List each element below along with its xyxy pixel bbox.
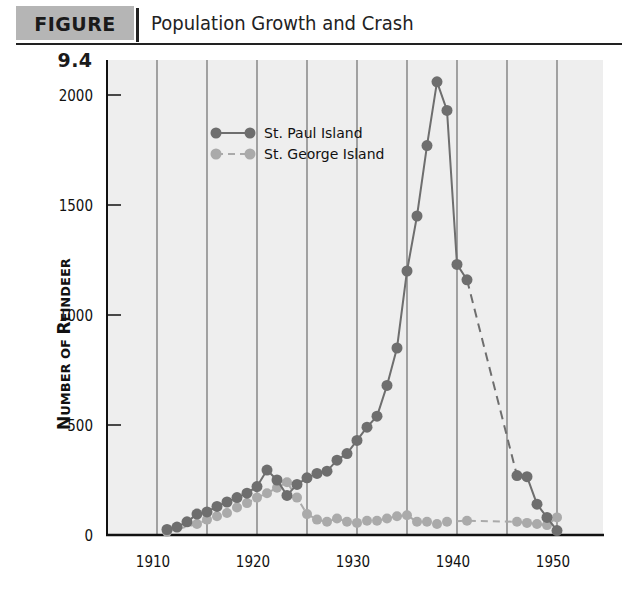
x-tick-label: 1920	[236, 553, 270, 571]
st-george-point	[212, 511, 222, 521]
st-george-point	[362, 516, 372, 526]
st-paul-point	[392, 343, 403, 354]
st-paul-point	[442, 105, 453, 116]
st-george-point	[322, 517, 332, 527]
st-paul-point	[332, 455, 343, 466]
st-george-point	[232, 503, 242, 513]
st-george-point	[442, 517, 452, 527]
st-paul-point	[552, 525, 563, 536]
st-george-point	[352, 518, 362, 528]
st-paul-point	[452, 259, 463, 270]
st-george-point	[412, 517, 422, 527]
st-paul-point	[162, 524, 173, 535]
st-george-point	[282, 477, 292, 487]
st-paul-point	[402, 266, 413, 277]
st-george-point	[552, 512, 562, 522]
st-paul-point	[422, 140, 433, 151]
st-paul-point	[182, 516, 193, 527]
x-tick-label: 1940	[436, 553, 470, 571]
st-paul-point	[312, 468, 323, 479]
st-george-point	[462, 516, 472, 526]
legend-st-paul-label: St. Paul Island	[264, 125, 363, 141]
legend-st-george-label: St. George Island	[264, 146, 384, 162]
x-axis-ticks: 19101920193019401950	[136, 553, 570, 571]
y-tick-label: 0	[84, 527, 93, 545]
st-george-point	[292, 493, 302, 503]
st-george-point	[532, 519, 542, 529]
st-george-point	[312, 515, 322, 525]
st-george-point	[372, 516, 382, 526]
st-george-point	[392, 511, 402, 521]
st-paul-point	[412, 211, 423, 222]
st-paul-point	[232, 492, 243, 503]
st-george-point	[432, 519, 442, 529]
y-tick-label: 2000	[59, 87, 93, 105]
st-george-point	[332, 514, 342, 524]
st-paul-point	[342, 448, 353, 459]
st-george-point	[402, 510, 412, 520]
legend-st-paul-marker	[211, 128, 222, 139]
st-paul-point	[372, 411, 383, 422]
st-george-point	[222, 508, 232, 518]
st-paul-point	[522, 471, 533, 482]
legend-st-george-marker	[211, 149, 222, 160]
reindeer-population-chart: 0500100015002000 19101920193019401950 St…	[0, 0, 638, 606]
st-paul-point	[282, 490, 293, 501]
st-george-point	[512, 517, 522, 527]
st-paul-point	[512, 470, 523, 481]
st-george-point	[262, 488, 272, 498]
st-paul-point	[382, 380, 393, 391]
st-george-point	[342, 517, 352, 527]
st-paul-point	[272, 475, 283, 486]
st-george-point	[302, 509, 312, 519]
st-paul-point	[252, 481, 263, 492]
st-george-point	[252, 493, 262, 503]
st-paul-point	[542, 512, 553, 523]
y-axis-label: NUMBER OF REINDEER	[54, 258, 74, 430]
y-tick-label: 1500	[59, 197, 93, 215]
st-paul-point	[462, 274, 473, 285]
st-paul-point	[322, 466, 333, 477]
st-paul-point	[212, 501, 223, 512]
st-george-point	[242, 498, 252, 508]
x-tick-label: 1910	[136, 553, 170, 571]
st-paul-point	[262, 465, 273, 476]
st-paul-point	[352, 435, 363, 446]
st-paul-point	[192, 509, 203, 520]
st-paul-point	[242, 488, 253, 499]
st-george-point	[382, 514, 392, 524]
st-george-point	[422, 517, 432, 527]
st-paul-point	[302, 472, 313, 483]
st-paul-point	[432, 76, 443, 87]
st-paul-point	[532, 499, 543, 510]
st-paul-point	[222, 497, 233, 508]
st-paul-point	[292, 479, 303, 490]
st-paul-point	[172, 522, 183, 533]
st-george-point	[192, 519, 202, 529]
legend-st-george-marker	[245, 149, 256, 160]
legend-st-paul-marker	[245, 128, 256, 139]
x-tick-label: 1950	[536, 553, 570, 571]
st-paul-point	[202, 506, 213, 517]
st-paul-point	[362, 422, 373, 433]
st-george-point	[522, 518, 532, 528]
x-tick-label: 1930	[336, 553, 370, 571]
